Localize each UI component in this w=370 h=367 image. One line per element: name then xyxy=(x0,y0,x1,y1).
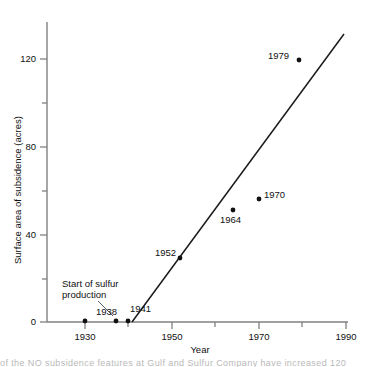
point-label-1952: 1952 xyxy=(155,247,176,258)
x-tick-label-1950: 1950 xyxy=(152,331,192,342)
data-point-1930 xyxy=(83,319,88,324)
clipped-caption-text: of the NO subsidence features at Gulf an… xyxy=(0,358,370,367)
x-axis-minor-ticks xyxy=(128,322,302,327)
x-axis-title: Year xyxy=(170,344,230,355)
annotation-line-2: production xyxy=(62,289,106,301)
point-label-1938: 1938 xyxy=(96,306,117,317)
x-tick-label-1990: 1990 xyxy=(326,331,366,342)
data-point-1941 xyxy=(126,319,131,324)
point-label-1970: 1970 xyxy=(264,189,285,200)
point-label-1941: 1941 xyxy=(130,303,151,314)
x-tick-label-1930: 1930 xyxy=(65,331,105,342)
subsidence-chart-figure: 120 80 40 0 1930 1950 1970 1990 Year Sur… xyxy=(0,0,370,367)
data-point-1970 xyxy=(257,197,262,202)
data-point-1964 xyxy=(231,208,236,213)
annotation-line-1: Start of sulfur xyxy=(62,278,119,290)
y-axis-minor-ticks xyxy=(42,103,47,279)
point-label-1964: 1964 xyxy=(220,214,241,225)
data-point-1938 xyxy=(114,319,119,324)
x-tick-label-1970: 1970 xyxy=(239,331,279,342)
y-tick-label-120: 120 xyxy=(8,53,36,64)
data-point-1979 xyxy=(297,58,302,63)
y-tick-label-0: 0 xyxy=(8,316,36,327)
data-point-1952 xyxy=(178,256,183,261)
y-axis-title: Surface area of subsidence (acres) xyxy=(12,116,23,264)
point-label-1979: 1979 xyxy=(268,50,289,61)
trend-line xyxy=(132,34,344,322)
chart-plot-area xyxy=(0,0,370,367)
